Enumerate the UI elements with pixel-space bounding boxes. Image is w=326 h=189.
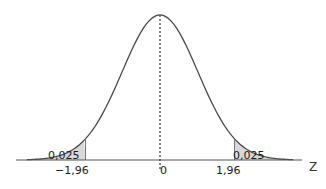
z-axis-label: Z [309,160,317,174]
left-critical-label: −1,96 [55,164,89,177]
normal-distribution-chart: 0,025 0,025 −1,96 0 1,96 Z [0,0,326,189]
center-label: 0 [160,164,167,177]
left-area-label: 0,025 [48,149,80,162]
right-area-label: 0,025 [233,149,265,162]
right-critical-label: 1,96 [216,164,241,177]
